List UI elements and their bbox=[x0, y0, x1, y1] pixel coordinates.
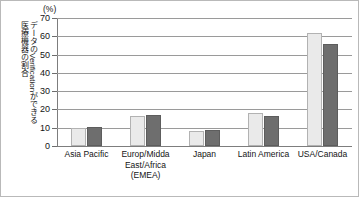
x-axis-category-label: USA/Canada bbox=[293, 149, 352, 160]
bar bbox=[146, 115, 161, 146]
bar bbox=[248, 113, 263, 146]
x-axis-category-label-line: USA/Canada bbox=[293, 149, 352, 160]
x-axis-category-label-line: Europ/Midda bbox=[116, 149, 175, 160]
y-axis-tick-label: 50 bbox=[40, 50, 50, 60]
x-axis-category-label-line: East/Africa bbox=[116, 160, 175, 171]
y-axis-tick-label: 10 bbox=[40, 123, 50, 133]
x-axis-category-label-line: Latin America bbox=[234, 149, 293, 160]
y-axis-tick-label: 40 bbox=[40, 68, 50, 78]
x-axis-category-label: Latin America bbox=[234, 149, 293, 160]
bar-group bbox=[189, 18, 220, 146]
bar bbox=[87, 127, 102, 146]
x-axis-category-label-line: (EMEA) bbox=[116, 170, 175, 181]
plot-area: 010203040506070 bbox=[57, 18, 352, 146]
y-axis-tick-label: 0 bbox=[45, 141, 50, 151]
chart-figure: データのVerificationができる 医療機器の割合 (%) 0102030… bbox=[0, 0, 359, 197]
gridline bbox=[57, 146, 352, 147]
bar bbox=[130, 116, 145, 146]
bar bbox=[71, 128, 86, 146]
y-axis-tick-label: 60 bbox=[40, 31, 50, 41]
y-axis-tick-label: 20 bbox=[40, 104, 50, 114]
bar-group bbox=[248, 18, 279, 146]
y-axis-tick-label: 70 bbox=[40, 13, 50, 23]
bar bbox=[189, 131, 204, 146]
bar bbox=[264, 116, 279, 146]
bar-group bbox=[307, 18, 338, 146]
x-axis-category-label: Asia Pacific bbox=[57, 149, 116, 160]
bars-layer bbox=[57, 18, 352, 146]
x-axis-category-label-line: Japan bbox=[175, 149, 234, 160]
bar bbox=[205, 130, 220, 146]
y-axis-title: データのVerificationができる 医療機器の割合 bbox=[3, 21, 37, 173]
y-axis-title-line-1: データのVerificationができる bbox=[28, 21, 36, 171]
x-axis-category-labels: Asia PacificEurop/MiddaEast/Africa(EMEA)… bbox=[57, 149, 355, 195]
bar-group bbox=[71, 18, 102, 146]
bar bbox=[307, 33, 322, 146]
x-axis-category-label: Japan bbox=[175, 149, 234, 160]
bar-group bbox=[130, 18, 161, 146]
y-axis-tick bbox=[52, 146, 57, 147]
x-axis-category-label: Europ/MiddaEast/Africa(EMEA) bbox=[116, 149, 175, 181]
y-axis-title-line-2: 医療機器の割合 bbox=[19, 21, 27, 171]
x-axis-category-label-line: Asia Pacific bbox=[57, 149, 116, 160]
y-axis-tick-label: 30 bbox=[40, 86, 50, 96]
bar bbox=[323, 44, 338, 146]
